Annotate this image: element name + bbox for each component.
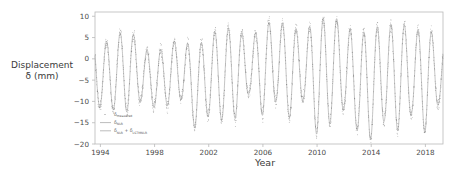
y-tick-label: −10 <box>74 97 90 106</box>
fit-line-series <box>95 18 443 139</box>
legend: δmeasuredδNLRδNLR + δLSTMNLR <box>100 112 148 135</box>
plot-canvas: 1050−5−10−15−20 199419982002200620102014… <box>0 0 453 172</box>
y-tick-label: 0 <box>84 54 89 63</box>
x-axis-title: Year <box>215 157 315 168</box>
y-tick-label: 10 <box>80 12 90 21</box>
y-tick-label: −5 <box>78 76 89 85</box>
legend-label: δNLR + δLSTMNLR <box>114 128 148 134</box>
x-tick-label: 1994 <box>91 148 110 157</box>
displacement-time-series-figure: Displacement δ (mm) Year 1050−5−10−15−20… <box>0 0 453 172</box>
legend-label: δmeasured <box>114 112 132 118</box>
x-tick-label: 2014 <box>362 148 381 157</box>
y-tick-label: −20 <box>74 140 90 149</box>
y-tick-label: 5 <box>84 33 89 42</box>
y-axis-title-line2: δ (mm) <box>6 71 78 82</box>
x-tick-label: 2002 <box>200 148 218 157</box>
x-tick-label: 2010 <box>308 148 327 157</box>
x-tick-label: 2006 <box>254 148 273 157</box>
x-axis-ticks: 1994199820022006201020142018 <box>91 144 435 157</box>
y-axis-title: Displacement δ (mm) <box>6 60 78 82</box>
measured-points-series <box>95 16 444 143</box>
x-tick-label: 1998 <box>145 148 164 157</box>
y-tick-label: −15 <box>74 118 89 127</box>
y-axis-title-line1: Displacement <box>6 60 78 71</box>
legend-label: δNLR <box>114 120 124 126</box>
x-tick-label: 2018 <box>416 148 435 157</box>
legend-marker-dot <box>105 114 106 115</box>
